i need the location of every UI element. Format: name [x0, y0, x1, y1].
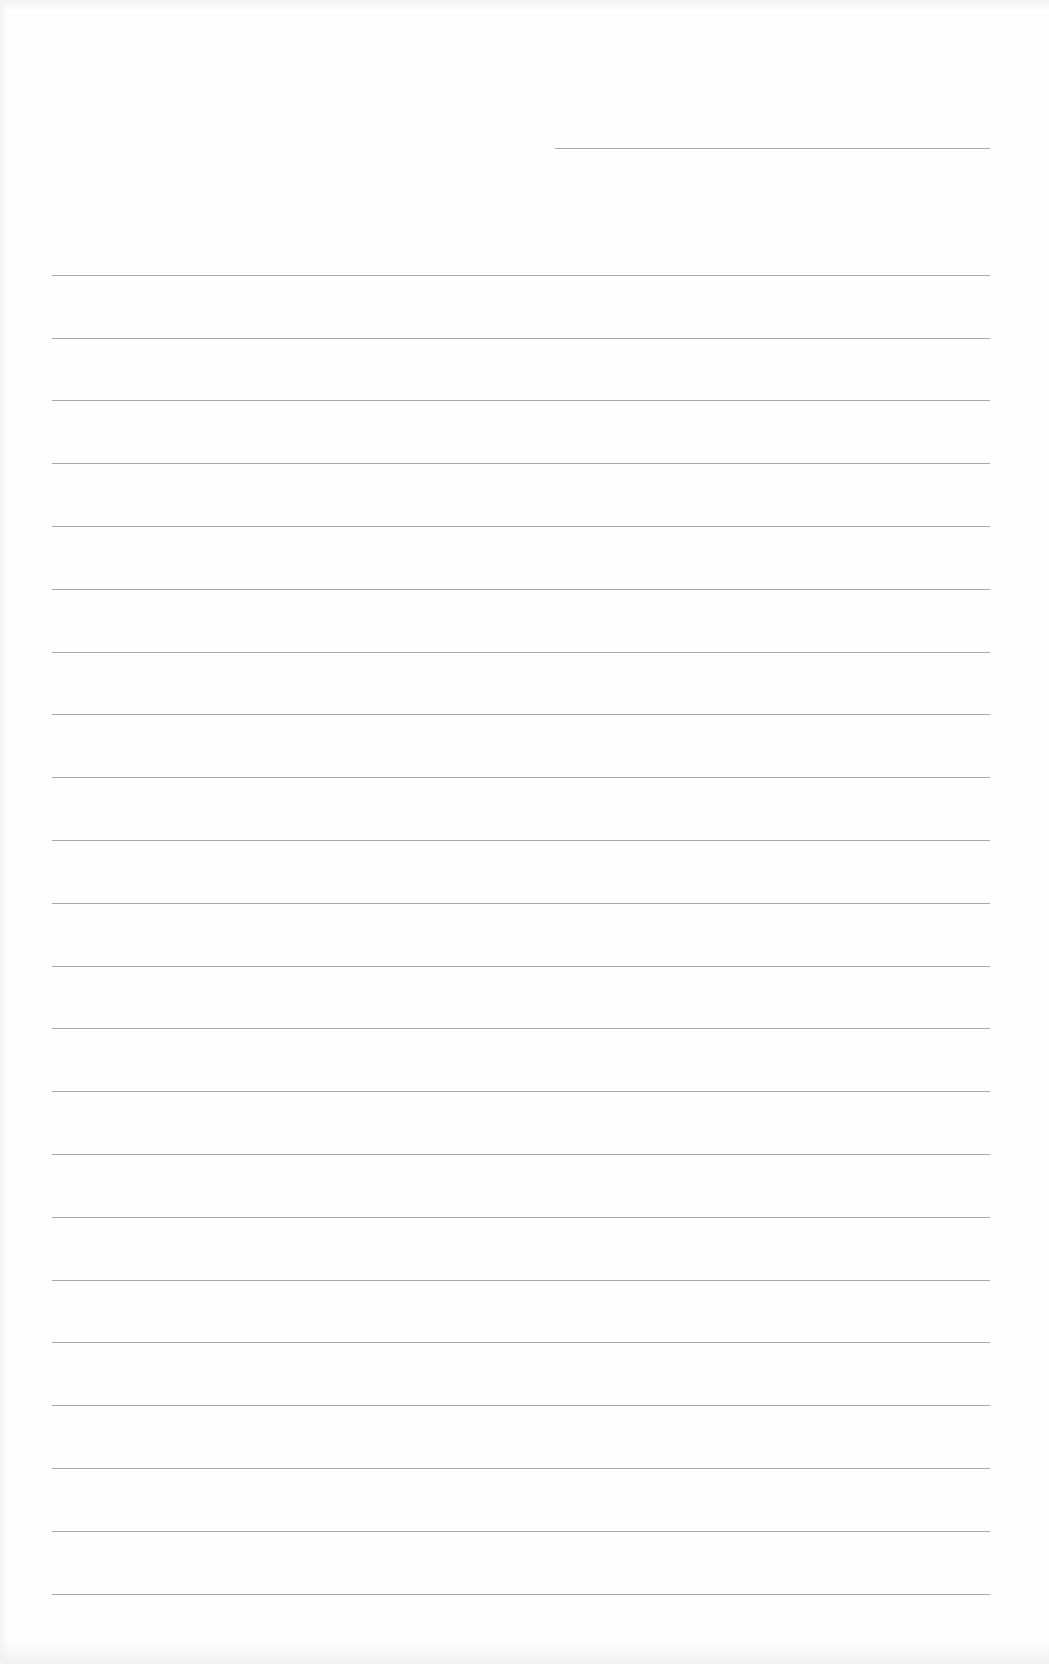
ruled-line	[52, 1217, 990, 1218]
ruled-line	[52, 275, 990, 276]
ruled-line	[52, 1342, 990, 1343]
ruled-line	[52, 1091, 990, 1092]
ruled-line	[52, 1280, 990, 1281]
scan-left-edge	[0, 0, 8, 1664]
ruled-line	[52, 1531, 990, 1532]
ruled-line	[52, 777, 990, 778]
ruled-line	[52, 714, 990, 715]
ruled-line	[52, 400, 990, 401]
scan-top-edge	[0, 0, 1049, 10]
lined-paper-page	[0, 0, 1049, 1664]
ruled-line	[52, 903, 990, 904]
ruled-line	[52, 526, 990, 527]
ruled-line	[52, 966, 990, 967]
header-rule-line	[555, 148, 990, 149]
ruled-line	[52, 840, 990, 841]
ruled-line	[52, 1405, 990, 1406]
ruled-line	[52, 1028, 990, 1029]
ruled-line	[52, 463, 990, 464]
ruled-line	[52, 589, 990, 590]
ruled-line	[52, 1594, 990, 1595]
scan-bottom-edge	[0, 1640, 1049, 1664]
ruled-line	[52, 1154, 990, 1155]
ruled-line	[52, 338, 990, 339]
ruled-line	[52, 1468, 990, 1469]
ruled-line	[52, 652, 990, 653]
